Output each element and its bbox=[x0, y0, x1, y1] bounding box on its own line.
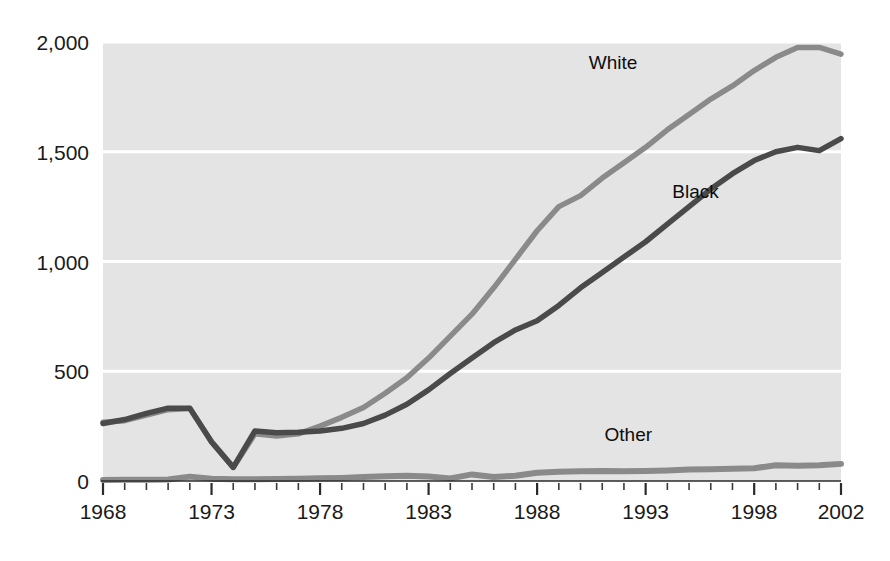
y-axis-tick-labels: 05001,0001,5002,000 bbox=[36, 31, 89, 493]
x-tick-label-1978: 1978 bbox=[297, 500, 344, 523]
series-label-black: Black bbox=[672, 181, 719, 202]
x-axis-tick-labels: 19681973197819831988199319982002 bbox=[80, 500, 865, 523]
x-tick-label-1988: 1988 bbox=[514, 500, 561, 523]
y-tick-label-2000: 2,000 bbox=[36, 31, 89, 54]
x-tick-label-1993: 1993 bbox=[622, 500, 669, 523]
y-tick-label-500: 500 bbox=[54, 360, 89, 383]
line-chart: 05001,0001,5002,000 19681973197819831988… bbox=[0, 0, 890, 561]
x-tick-label-1983: 1983 bbox=[405, 500, 452, 523]
x-tick-label-1973: 1973 bbox=[188, 500, 235, 523]
series-label-white: White bbox=[589, 52, 638, 73]
y-tick-label-1500: 1,500 bbox=[36, 141, 89, 164]
x-tick-label-1998: 1998 bbox=[731, 500, 778, 523]
chart-container: 05001,0001,5002,000 19681973197819831988… bbox=[0, 0, 890, 561]
x-tick-label-2002: 2002 bbox=[818, 500, 865, 523]
x-axis-ticks bbox=[101, 481, 841, 495]
y-tick-label-1000: 1,000 bbox=[36, 251, 89, 274]
y-tick-label-0: 0 bbox=[77, 470, 89, 493]
series-label-other: Other bbox=[605, 424, 653, 445]
x-tick-label-1968: 1968 bbox=[80, 500, 127, 523]
